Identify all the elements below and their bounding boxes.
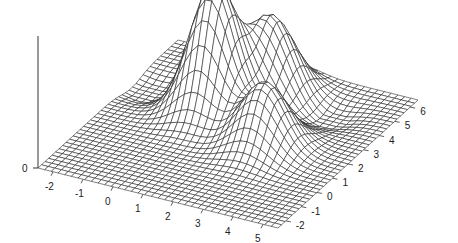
y-tick-mark: [379, 136, 384, 137]
y-tick-mark: [332, 178, 337, 179]
x-tick-mark: [141, 194, 143, 198]
x-tick-mark: [261, 224, 263, 228]
y-tick-label: -2: [296, 220, 305, 231]
x-tick-mark: [231, 217, 233, 221]
y-tick-mark: [301, 207, 306, 208]
y-tick-label: 6: [420, 106, 426, 117]
x-tick-label: 4: [225, 226, 231, 237]
y-tick-mark: [348, 164, 353, 165]
y-tick-mark: [410, 107, 415, 108]
y-tick-label: -1: [311, 206, 320, 217]
surface-plot: 0 -2-1012345 -2-10123456: [0, 0, 458, 243]
x-tick-label: 3: [195, 218, 201, 229]
x-tick-label: 1: [135, 203, 141, 214]
z-tick-label: 0: [22, 163, 28, 174]
x-tick-label: 2: [165, 211, 171, 222]
x-tick-mark: [171, 202, 173, 206]
y-tick-label: 2: [358, 163, 364, 174]
y-tick-label: 4: [389, 135, 395, 146]
x-tick-label: 5: [255, 233, 261, 243]
y-tick-label: 0: [327, 191, 333, 202]
x-tick-mark: [81, 179, 83, 183]
y-tick-label: 5: [405, 120, 411, 131]
x-tick-mark: [201, 209, 203, 213]
wireframe-surface: [38, 0, 418, 228]
x-tick-mark: [51, 172, 53, 176]
x-tick-label: -2: [45, 181, 54, 192]
y-tick-mark: [395, 121, 400, 122]
x-tick-label: 0: [105, 196, 111, 207]
y-tick-label: 3: [374, 149, 380, 160]
y-tick-mark: [317, 192, 322, 193]
y-tick-label: 1: [342, 177, 348, 188]
y-tick-mark: [364, 150, 369, 151]
x-tick-label: -1: [75, 188, 84, 199]
y-tick-mark: [286, 221, 291, 222]
x-tick-mark: [111, 187, 113, 191]
